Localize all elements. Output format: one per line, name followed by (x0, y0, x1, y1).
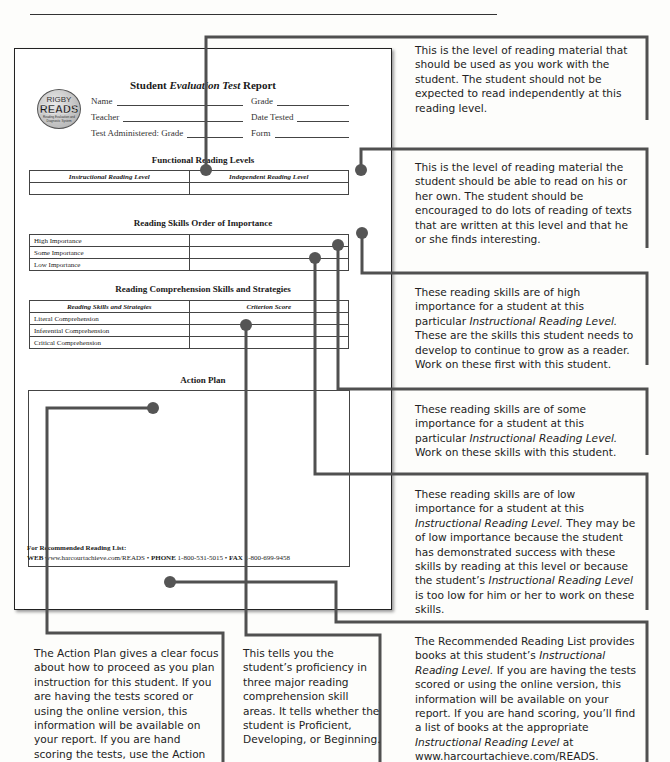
report-title: Student Evaluation Test Report (15, 79, 391, 91)
report-footer: For Recommended Reading List: WEB www.ha… (27, 543, 290, 563)
table-row: Critical Comprehension (30, 337, 349, 349)
independent-level-cell[interactable] (189, 183, 349, 195)
callout-high-importance: These reading skills are of high importa… (415, 285, 637, 371)
functional-levels-table: Instructional Reading LevelIndependent R… (29, 170, 349, 195)
instructional-level-cell[interactable] (30, 183, 190, 195)
table-row: Some Importance (30, 247, 349, 259)
callout-independent-level: This is the level of reading material th… (415, 160, 637, 246)
comprehension-table: Reading Skills and StrategiesCriterion S… (29, 300, 349, 349)
table-row: Literal Comprehension (30, 313, 349, 325)
action-plan-title: Action Plan (15, 375, 391, 385)
callout-instructional-level: This is the level of reading material th… (415, 43, 637, 115)
table-row: High Importance (30, 235, 349, 247)
callout-action-plan: The Action Plan gives a clear focus abou… (34, 646, 219, 761)
teacher-field[interactable]: Teacher (91, 112, 243, 122)
comprehension-title: Reading Comprehension Skills and Strateg… (15, 284, 391, 294)
rigby-reads-logo: RIGBY READS Reading Evaluation and Diagn… (37, 89, 81, 129)
test-administered-grade-field[interactable]: Test Administered: Grade (91, 128, 243, 138)
callout-proficiency: This tells you the student’s proficiency… (243, 646, 383, 747)
callout-recommended-reading-list: The Recommended Reading List provides bo… (415, 634, 637, 762)
instructional-level-header: Instructional Reading Level (30, 171, 190, 183)
independent-level-header: Independent Reading Level (189, 171, 349, 183)
table-row: Low Importance (30, 259, 349, 271)
name-field[interactable]: Name (91, 96, 243, 106)
callout-some-importance: These reading skills are of some importa… (415, 402, 637, 460)
skills-order-title: Reading Skills Order of Importance (15, 218, 391, 228)
action-plan-box[interactable] (28, 390, 350, 567)
table-row: Inferential Comprehension (30, 325, 349, 337)
skills-order-table: High Importance Some Importance Low Impo… (29, 234, 349, 271)
grade-field[interactable]: Grade (251, 96, 349, 106)
page-header-rule (30, 14, 497, 15)
date-tested-field[interactable]: Date Tested (251, 112, 349, 122)
form-field[interactable]: Form (251, 128, 349, 138)
functional-levels-title: Functional Reading Levels (15, 155, 391, 165)
callout-low-importance: These reading skills are of low importan… (415, 487, 637, 617)
evaluation-report-form: Student Evaluation Test Report RIGBY REA… (14, 48, 392, 610)
